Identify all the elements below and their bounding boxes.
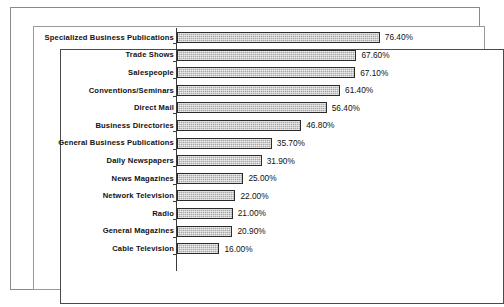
bar-chart-row: Daily Newspapers31.90% — [27, 152, 469, 169]
bar-chart-row: Direct Mail56.40% — [27, 99, 469, 116]
bar-value-label: 35.70% — [277, 139, 305, 147]
bar-chart-row: Conventions/Seminars61.40% — [27, 82, 469, 99]
category-label: Trade Shows — [0, 51, 174, 59]
axis-tick-mark — [173, 201, 176, 202]
bar-and-value: 25.00% — [177, 170, 277, 187]
category-label: Salespeople — [0, 69, 174, 77]
category-label: Specialized Business Publications — [0, 34, 174, 42]
bar — [177, 67, 355, 78]
bar-value-label: 21.00% — [238, 209, 266, 217]
bar — [177, 50, 356, 61]
axis-tick-mark — [173, 184, 176, 185]
bar — [177, 138, 272, 149]
bar — [177, 120, 301, 131]
bar-value-label: 31.90% — [267, 157, 295, 165]
axis-tick-mark — [173, 43, 176, 44]
bar — [177, 155, 262, 166]
bar-value-label: 56.40% — [332, 104, 360, 112]
axis-tick-mark — [173, 254, 176, 255]
category-label: General Magazines — [0, 227, 174, 235]
bar-value-label: 67.10% — [360, 69, 388, 77]
bar-chart-plot-area: Specialized Business Publications76.40%T… — [27, 23, 469, 276]
category-label: Network Television — [0, 192, 174, 200]
bar-value-label: 16.00% — [224, 245, 252, 253]
axis-tick-mark — [173, 78, 176, 79]
bar — [177, 85, 340, 96]
category-label: News Magazines — [0, 175, 174, 183]
bar-value-label: 25.00% — [248, 174, 276, 182]
bar — [177, 173, 243, 184]
bar-and-value: 61.40% — [177, 82, 373, 99]
bar-chart-row: General Business Publications35.70% — [27, 135, 469, 152]
bar-and-value: 67.60% — [177, 47, 390, 64]
bar-chart-row: Radio21.00% — [27, 205, 469, 222]
bar-value-label: 20.90% — [237, 227, 265, 235]
axis-tick-mark — [173, 131, 176, 132]
category-label: Conventions/Seminars — [0, 87, 174, 95]
bar-chart-row: Business Directories46.80% — [27, 117, 469, 134]
axis-tick-mark — [173, 219, 176, 220]
bar-and-value: 22.00% — [177, 187, 269, 204]
bar-value-label: 67.60% — [361, 51, 389, 59]
bar-chart-row: Specialized Business Publications76.40% — [27, 29, 469, 46]
axis-tick-mark — [173, 96, 176, 97]
axis-tick-mark — [173, 113, 176, 114]
bar-and-value: 31.90% — [177, 152, 295, 169]
bar-and-value: 35.70% — [177, 135, 305, 152]
axis-tick-mark — [173, 61, 176, 62]
bar-and-value: 46.80% — [177, 117, 334, 134]
bar-and-value: 67.10% — [177, 64, 388, 81]
category-label: Radio — [0, 210, 174, 218]
bar — [177, 32, 380, 43]
bar — [177, 190, 235, 201]
category-label: General Business Publications — [0, 139, 174, 147]
bar-chart-row: General Magazines20.90% — [27, 223, 469, 240]
bar-chart-row: Network Television22.00% — [27, 187, 469, 204]
axis-tick-mark — [173, 237, 176, 238]
bar-chart-row: Cable Television16.00% — [27, 240, 469, 257]
category-label: Daily Newspapers — [0, 157, 174, 165]
category-label: Cable Television — [0, 245, 174, 253]
bar — [177, 226, 232, 237]
bar-and-value: 56.40% — [177, 99, 360, 116]
bar-and-value: 20.90% — [177, 223, 266, 240]
axis-tick-mark — [173, 149, 176, 150]
bar-value-label: 61.40% — [345, 86, 373, 94]
bar-chart-row: Trade Shows67.60% — [27, 47, 469, 64]
bar — [177, 243, 219, 254]
bar-chart-row: News Magazines25.00% — [27, 170, 469, 187]
bar-and-value: 21.00% — [177, 205, 266, 222]
bar-value-label: 22.00% — [240, 192, 268, 200]
axis-tick-mark — [173, 166, 176, 167]
bar-and-value: 76.40% — [177, 29, 413, 46]
bar-value-label: 46.80% — [306, 121, 334, 129]
category-label: Business Directories — [0, 122, 174, 130]
bar-chart-row: Salespeople67.10% — [27, 64, 469, 81]
bar-and-value: 16.00% — [177, 240, 253, 257]
bar-value-label: 76.40% — [385, 33, 413, 41]
bar — [177, 208, 233, 219]
bar — [177, 102, 327, 113]
category-label: Direct Mail — [0, 104, 174, 112]
